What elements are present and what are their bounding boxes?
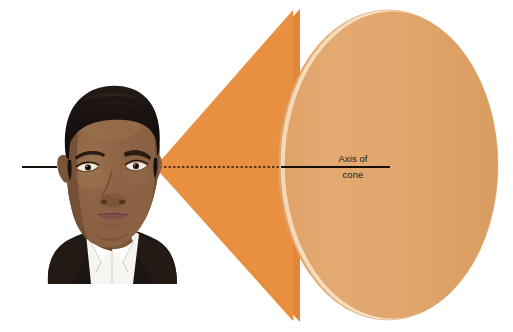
cone-of-vision-figure [0, 0, 513, 332]
diagram-canvas: Axis of cone [0, 0, 513, 332]
cone-base-ellipse [278, 10, 504, 320]
man-portrait [48, 85, 177, 284]
